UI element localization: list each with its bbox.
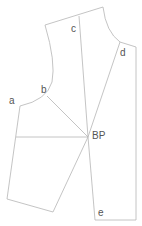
label-bp: BP — [92, 131, 105, 141]
side-seam — [7, 106, 88, 212]
label-a: a — [9, 96, 15, 106]
dart-line-c — [79, 16, 88, 137]
neckline-curve — [103, 7, 136, 47]
label-e: e — [98, 208, 104, 218]
dart-line-b — [47, 96, 88, 137]
label-b: b — [41, 85, 47, 95]
label-d: d — [120, 48, 126, 58]
dart-line-d — [88, 42, 120, 137]
armhole-curve — [20, 25, 53, 106]
label-c: c — [71, 24, 76, 34]
